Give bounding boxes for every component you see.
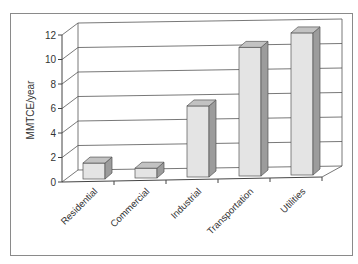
x-axis-categories: ResidentialCommercialIndustrialTransport… bbox=[58, 177, 322, 236]
x-category-label: Industrial bbox=[168, 186, 203, 221]
y-tick-label: 0 bbox=[50, 177, 56, 188]
bars bbox=[83, 27, 320, 179]
y-tick-label: 6 bbox=[50, 103, 56, 114]
y-tick-label: 10 bbox=[45, 54, 57, 65]
x-category-label: Commercial bbox=[108, 186, 152, 230]
y-axis-label: MMTCE/year bbox=[25, 80, 36, 140]
x-category-label: Transportation bbox=[205, 186, 256, 237]
bar-transportation bbox=[239, 41, 268, 176]
x-category-label: Utilities bbox=[278, 185, 308, 215]
y-axis-ticks: 024681012 bbox=[45, 30, 62, 188]
bar-residential bbox=[83, 157, 112, 179]
y-tick-label: 2 bbox=[50, 152, 56, 163]
bar-utilities bbox=[291, 27, 320, 175]
x-category-label: Residential bbox=[58, 186, 99, 227]
y-tick-label: 12 bbox=[45, 30, 57, 41]
bar-industrial bbox=[187, 100, 216, 177]
y-tick-label: 4 bbox=[50, 128, 56, 139]
y-tick-label: 8 bbox=[50, 79, 56, 90]
bar-chart: 024681012 ResidentialCommercialIndustria… bbox=[0, 0, 358, 264]
bar-commercial bbox=[135, 162, 164, 178]
